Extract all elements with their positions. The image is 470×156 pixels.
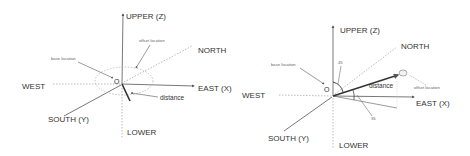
angle-arc-horizontal	[353, 90, 354, 100]
left-diagram: O UPPER (Z) LOWER NORTH SOUTH (Y) EAST (…	[22, 12, 232, 138]
south-label: SOUTH (Y)	[48, 115, 89, 124]
west-axis	[279, 95, 331, 96]
north-label: NORTH	[401, 42, 430, 51]
east-axis	[122, 84, 194, 86]
distance-line	[122, 84, 130, 101]
east-axis	[333, 96, 414, 97]
offset-location-pointer	[409, 75, 426, 85]
offset-location-label: offset location	[414, 85, 440, 90]
base-location-label: base location	[51, 56, 76, 61]
offset-marker	[399, 70, 407, 76]
base-location-pointer	[300, 68, 324, 84]
lower-label: LOWER	[127, 128, 157, 137]
origin-label: O	[324, 86, 330, 93]
upper-label: UPPER (Z)	[126, 12, 166, 21]
north-axis	[124, 46, 192, 82]
offset-ellipse	[95, 67, 153, 95]
west-label: WEST	[242, 91, 265, 100]
angle-35-label: 35	[371, 116, 376, 121]
south-label: SOUTH (Y)	[268, 134, 309, 143]
base-location-label: base location	[271, 62, 296, 67]
origin-label: O	[114, 78, 120, 85]
west-label: WEST	[22, 82, 45, 91]
coordinate-diagrams: O UPPER (Z) LOWER NORTH SOUTH (Y) EAST (…	[0, 0, 470, 156]
south-axis	[64, 85, 121, 116]
south-axis	[284, 97, 332, 131]
base-location-pointer	[78, 62, 113, 78]
lower-label: LOWER	[339, 141, 369, 150]
upper-label: UPPER (Z)	[340, 26, 380, 35]
angle-45-label: 45	[338, 60, 343, 65]
angle-45-pointer	[338, 66, 341, 84]
angle-35-pointer	[357, 95, 372, 116]
distance-label: distance	[160, 94, 185, 101]
distance-label: distance	[369, 82, 394, 89]
offset-location-label: offset location	[139, 38, 165, 43]
east-label: EAST (X)	[198, 84, 232, 93]
east-label: EAST (X)	[416, 99, 450, 108]
offset-location-pointer	[136, 45, 150, 68]
distance-pointer	[131, 93, 158, 97]
right-diagram: O UPPER (Z) LOWER NORTH SOUTH (Y) EAST (…	[242, 26, 450, 150]
north-label: NORTH	[198, 46, 227, 55]
upper-axis	[122, 14, 123, 84]
